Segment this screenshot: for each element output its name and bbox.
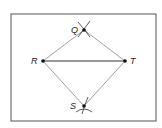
label-r: R [31,56,38,66]
point-t [123,59,127,63]
segment-rs [43,61,84,106]
segment-qt [84,30,125,61]
point-s [82,104,86,108]
geometry-construction-diagram: Q R T S [0,0,162,128]
label-q: Q [71,25,78,35]
label-s: S [70,101,76,111]
point-q [82,28,86,32]
label-t: T [130,56,137,66]
segment-st [84,61,125,106]
point-r [41,59,45,63]
